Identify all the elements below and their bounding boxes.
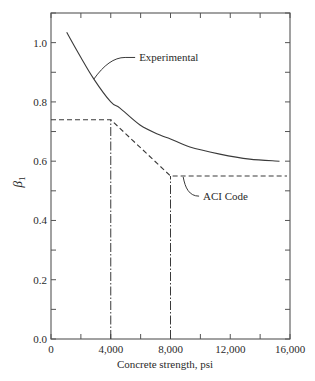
beta1-vs-concrete-strength-chart: 04,0008,00012,00016,0000.00.20.40.60.81.… <box>0 0 315 381</box>
annotation-aci-code-label: ACI Code <box>203 190 248 202</box>
y-tick-label: 0.6 <box>33 155 47 167</box>
y-tick-label: 1.0 <box>33 37 47 49</box>
x-tick-label: 16,000 <box>275 343 306 355</box>
y-axis-title: β1 <box>10 177 27 189</box>
y-tick-label: 0.8 <box>33 96 47 108</box>
x-tick-label: 8,000 <box>158 343 183 355</box>
y-axis-subscript: 1 <box>17 177 27 182</box>
annotation-aci-code-leader <box>183 177 199 196</box>
y-tick-label: 0.2 <box>33 274 47 286</box>
annotation-experimental-leader <box>94 57 135 79</box>
y-tick-label: 0.4 <box>33 214 47 226</box>
y-tick-label: 0.0 <box>33 333 47 345</box>
x-tick-label: 12,000 <box>215 343 246 355</box>
x-tick-label: 0 <box>48 343 54 355</box>
reference-lines <box>111 120 171 339</box>
x-axis-title: Concrete strength, psi <box>117 358 213 370</box>
annotation-experimental-label: Experimental <box>139 51 198 63</box>
series-aci-code <box>51 120 287 176</box>
annotations: ExperimentalACI Code <box>94 51 248 202</box>
axis-tick-labels: 04,0008,00012,00016,0000.00.20.40.60.81.… <box>33 37 305 355</box>
x-tick-label: 4,000 <box>98 343 123 355</box>
